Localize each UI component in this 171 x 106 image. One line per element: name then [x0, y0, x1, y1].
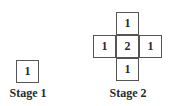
stage-2-cell-left: 1 [93, 35, 116, 58]
stage-2-cell-right: 1 [139, 35, 162, 58]
stage-2-cell-bottom: 1 [116, 58, 139, 81]
stage-1-label: Stage 1 [10, 86, 47, 101]
stage-2-cell-center: 2 [116, 35, 139, 58]
stage-2-label: Stage 2 [110, 86, 147, 101]
stage-2-cell-top: 1 [116, 12, 139, 35]
stage-1-cell: 1 [16, 60, 39, 83]
